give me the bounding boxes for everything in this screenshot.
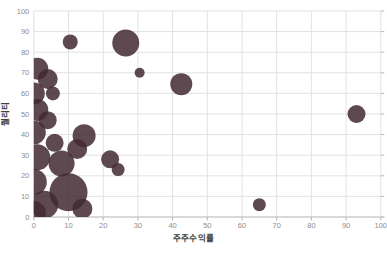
y-tick-label: 10 [21, 192, 29, 201]
y-tick-label: 40 [21, 130, 29, 139]
y-tick-label: 100 [17, 7, 30, 16]
x-tick-label: 90 [342, 221, 350, 230]
bubble-point [135, 68, 145, 78]
x-tick-label: 30 [134, 221, 142, 230]
x-tick-label: 10 [64, 221, 72, 230]
bubble-point [253, 198, 266, 211]
x-tick-label: 50 [203, 221, 211, 230]
bubble-point [112, 163, 125, 176]
x-tick-label: 100 [375, 221, 387, 230]
bubble-point [46, 134, 64, 152]
x-tick-label: 70 [273, 221, 281, 230]
y-tick-label: 80 [21, 48, 29, 57]
y-tick-label: 20 [21, 171, 29, 180]
plot-area: 0102030405060708090100010203040506070809… [0, 0, 387, 253]
bubble-chart: 0102030405060708090100010203040506070809… [0, 0, 387, 253]
bubble-point [46, 86, 60, 100]
x-tick-label: 60 [238, 221, 246, 230]
x-tick-label: 40 [168, 221, 176, 230]
bubble-point [112, 29, 139, 56]
y-tick-label: 90 [21, 27, 29, 36]
x-tick-label: 20 [99, 221, 107, 230]
bubble-point [72, 199, 92, 219]
y-tick-label: 60 [21, 89, 29, 98]
bubble-point [63, 34, 78, 49]
y-tick-label: 70 [21, 68, 29, 77]
y-tick-label: 50 [21, 110, 29, 119]
x-tick-label: 80 [307, 221, 315, 230]
x-tick-label: 0 [32, 221, 36, 230]
bubble-group [21, 29, 366, 224]
y-axis-title: 퀄리티 [0, 84, 10, 144]
x-axis-title: 주주수익률 [0, 231, 387, 243]
bubble-point [348, 105, 366, 123]
bubble-point [170, 73, 192, 95]
bubble-point [73, 124, 96, 147]
y-tick-label: 30 [21, 151, 29, 160]
y-tick-label: 0 [25, 213, 29, 222]
